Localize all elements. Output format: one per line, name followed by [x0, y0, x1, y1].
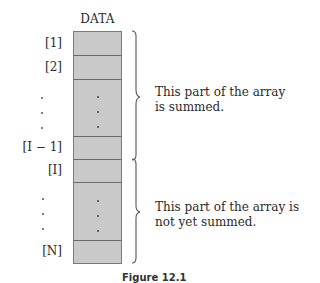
array-cell-i-minus-1	[74, 137, 121, 160]
summed-note-line-2: is summed.	[155, 100, 285, 115]
array-cell-ellipsis-summed	[74, 80, 121, 137]
index-label-i-minus-1: [I − 1]	[23, 140, 62, 154]
figure-caption: Figure 12.1	[122, 272, 186, 283]
cell-ellipsis-dot	[97, 111, 99, 113]
array-cell-1	[74, 32, 121, 56]
index-ellipsis-dot	[41, 112, 43, 114]
cell-ellipsis-dot	[97, 200, 99, 202]
array-title: DATA	[73, 12, 122, 26]
array-cell-i	[74, 160, 121, 183]
cell-ellipsis-dot	[97, 215, 99, 217]
index-label-1: [1]	[45, 36, 62, 50]
index-ellipsis-dot	[42, 198, 44, 200]
index-label-i: [I]	[48, 163, 62, 177]
cell-ellipsis-dot	[97, 96, 99, 98]
summed-note-line-1: This part of the array	[155, 85, 285, 100]
index-ellipsis-dot	[41, 127, 43, 129]
not-summed-note-line-2: not yet summed.	[155, 215, 299, 230]
brace-not-summed-icon	[130, 158, 146, 264]
cell-ellipsis-dot	[97, 126, 99, 128]
array-cell-2	[74, 56, 121, 80]
brace-summed-icon	[130, 30, 146, 161]
data-array	[73, 31, 122, 264]
index-label-n: [N]	[42, 244, 62, 258]
array-cell-ellipsis-unsummed	[74, 183, 121, 241]
not-summed-note: This part of the array is not yet summed…	[155, 200, 299, 230]
cell-ellipsis-dot	[97, 230, 99, 232]
summed-note: This part of the array is summed.	[155, 85, 285, 115]
not-summed-note-line-1: This part of the array is	[155, 200, 299, 215]
index-ellipsis-dot	[42, 213, 44, 215]
index-ellipsis-dot	[42, 228, 44, 230]
index-ellipsis-dot	[41, 97, 43, 99]
array-cell-n	[74, 241, 121, 263]
index-label-2: [2]	[45, 60, 62, 74]
